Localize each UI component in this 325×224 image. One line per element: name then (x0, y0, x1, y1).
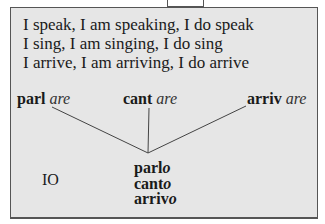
connector-line-middle (148, 108, 149, 153)
connector-line-left (52, 107, 148, 153)
connector-lines (0, 0, 325, 224)
connector-line-right (148, 106, 246, 153)
